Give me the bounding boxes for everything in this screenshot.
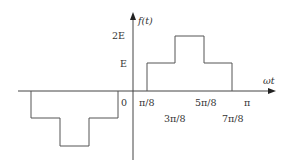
positive-pulse — [147, 36, 232, 91]
label-pi: π — [244, 97, 250, 108]
y-axis-arrow-icon — [130, 12, 136, 20]
negative-pulse — [31, 91, 118, 146]
label-pi-8: π/8 — [139, 97, 155, 108]
label-5pi-8: 5π/8 — [195, 97, 217, 108]
label-3pi-8: 3π/8 — [164, 113, 186, 124]
y-axis-label: f(t) — [137, 15, 153, 26]
label-origin: 0 — [121, 97, 127, 108]
waveform-diagram: f(t) 2E E ωt 0 π/8 5π/8 π 3π/8 7π/8 — [0, 0, 288, 168]
label-7pi-8: 7π/8 — [222, 113, 244, 124]
x-axis-arrow-icon — [268, 88, 276, 94]
label-2e: 2E — [112, 30, 125, 41]
x-axis-label: ωt — [263, 75, 275, 86]
label-e: E — [120, 58, 127, 69]
